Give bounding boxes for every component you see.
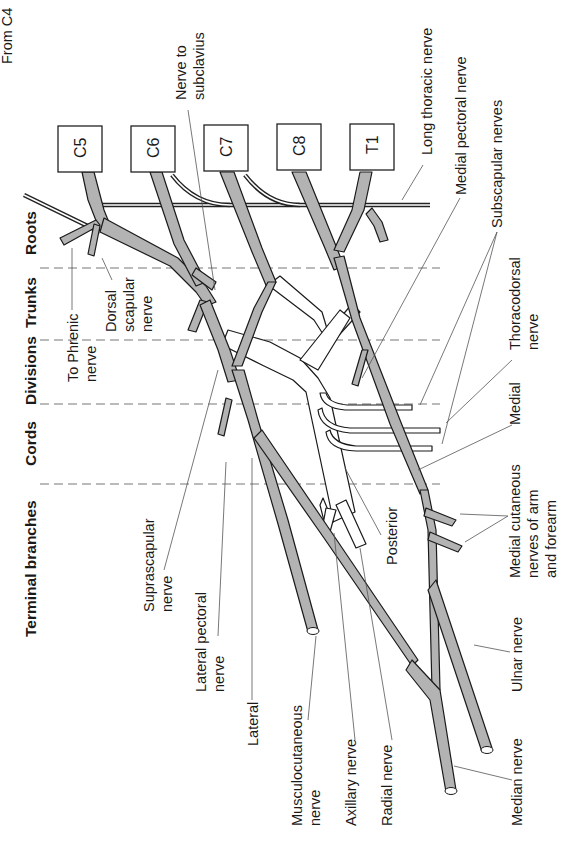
label-suprascapular-1: Suprascapular xyxy=(141,518,157,612)
nerve-roots-and-trunks xyxy=(60,172,492,792)
region-terminal-branches: Terminal branches xyxy=(22,500,39,637)
label-medial-cutaneous-3: and forearm xyxy=(543,500,559,578)
region-cords: Cords xyxy=(22,421,39,466)
root-boxes: C5 C6 C7 C8 T1 xyxy=(58,124,394,172)
label-axillary: Axillary nerve xyxy=(343,739,359,826)
label-thoracodorsal-2: nerve xyxy=(525,314,541,350)
leader-lines xyxy=(72,110,512,780)
svg-text:C5: C5 xyxy=(72,137,89,158)
label-dorsal-scapular-2: scapular xyxy=(121,277,137,332)
label-median: Median nerve xyxy=(509,738,525,826)
root-c7: C7 xyxy=(204,125,248,171)
root-c6: C6 xyxy=(131,126,175,172)
label-musculocutaneous-2: nerve xyxy=(307,790,323,826)
brachial-plexus-diagram: Roots Trunks Divisions Cords Terminal br… xyxy=(0,0,575,846)
label-radial: Radial nerve xyxy=(379,745,395,826)
svg-text:C6: C6 xyxy=(145,137,162,158)
label-dorsal-scapular-1: Dorsal xyxy=(103,290,119,332)
root-t1: T1 xyxy=(350,124,394,170)
label-to-phrenic-2: nerve xyxy=(83,346,99,382)
svg-text:C8: C8 xyxy=(291,135,308,156)
label-posterior: Posterior xyxy=(384,507,400,565)
label-from-c4: From C4 xyxy=(0,8,15,64)
label-to-phrenic-1: To Phrenic xyxy=(65,313,81,382)
lower-trunk xyxy=(334,256,428,494)
label-nerve-to-subclavius-2: subclavius xyxy=(191,32,207,100)
region-trunks: Trunks xyxy=(22,277,39,328)
label-medial-cutaneous-2: nerves of arm xyxy=(525,489,541,578)
region-roots: Roots xyxy=(22,211,39,255)
long-thoracic-nerve xyxy=(100,175,430,205)
label-medial-pectoral: Medial pectoral nerve xyxy=(453,56,469,195)
median-nerve xyxy=(406,660,456,792)
label-lateral-pectoral-1: Lateral pectoral xyxy=(193,592,209,692)
label-lateral: Lateral xyxy=(245,702,261,746)
label-medial: Medial xyxy=(507,382,523,425)
svg-text:C7: C7 xyxy=(218,136,235,157)
label-medial-cutaneous-1: Medial cutaneous xyxy=(507,464,523,578)
label-suprascapular-2: nerve xyxy=(159,576,175,612)
nerve-cut-ends xyxy=(307,628,493,795)
root-c8: C8 xyxy=(277,124,321,170)
label-musculocutaneous-1: Musculocutaneous xyxy=(289,705,305,826)
label-thoracodorsal-1: Thoracodorsal xyxy=(507,257,523,350)
label-subscapular: Subscapular nerves xyxy=(489,100,505,228)
t1-root xyxy=(334,172,372,252)
label-dorsal-scapular-3: nerve xyxy=(139,296,155,332)
lateral-pectoral-branch xyxy=(218,398,232,436)
t1-small-branch xyxy=(366,208,388,242)
label-nerve-to-subclavius-1: Nerve to xyxy=(173,45,189,100)
label-lateral-pectoral-2: nerve xyxy=(211,656,227,692)
root-c5: C5 xyxy=(58,126,102,172)
svg-text:T1: T1 xyxy=(364,135,381,154)
c7-root xyxy=(220,172,276,290)
medial-pectoral-branch xyxy=(352,350,368,386)
label-ulnar: Ulnar nerve xyxy=(509,617,525,692)
region-labels: Roots Trunks Divisions Cords Terminal br… xyxy=(22,211,39,637)
region-divisions: Divisions xyxy=(22,336,39,405)
c8-root xyxy=(292,172,344,270)
label-long-thoracic: Long thoracic nerve xyxy=(419,28,435,155)
